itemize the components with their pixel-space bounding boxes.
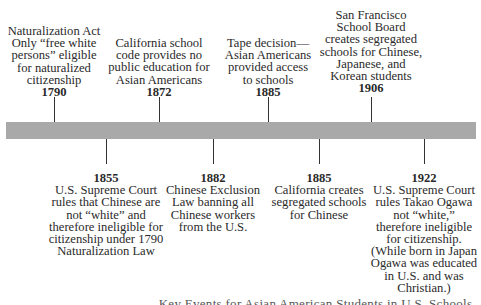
- event-text: public education for: [108, 61, 209, 73]
- event-text: to schools: [225, 74, 311, 86]
- event-1906: San Francisco School Board creates segre…: [320, 9, 422, 94]
- event-1885-tape: Tape decision— Asian Americans provided …: [225, 37, 311, 98]
- event-year: 1790: [8, 86, 101, 98]
- event-1922: 1922 U.S. Supreme Court rules Takao Ogaw…: [371, 172, 477, 294]
- event-text: not “white,”: [371, 209, 477, 221]
- event-text: segregated schools: [272, 196, 367, 208]
- caption-text: Key Events for Asian American Students i…: [0, 296, 481, 305]
- event-text: Chinese workers: [166, 209, 260, 221]
- event-1872: California school code provides no publi…: [108, 37, 209, 98]
- tick-1872: [159, 97, 160, 122]
- event-1882: 1882 Chinese Exclusion Law banning all C…: [166, 172, 260, 233]
- tick-1882: [213, 139, 214, 164]
- event-text: persons” eligible: [8, 49, 101, 61]
- tick-1922: [424, 139, 425, 164]
- event-text: creates segregated: [320, 33, 422, 45]
- event-year: 1906: [320, 82, 422, 94]
- event-1790: Naturalization Act Only “free white pers…: [8, 25, 101, 98]
- event-text: rules Takao Ogawa: [371, 196, 477, 208]
- event-year: 1872: [108, 86, 209, 98]
- event-text: Law banning all: [166, 196, 260, 208]
- event-text: Christian.): [371, 282, 477, 294]
- tick-1885-above: [268, 97, 269, 122]
- event-text: Asian Americans: [108, 74, 209, 86]
- event-text: Naturalization Law: [49, 245, 164, 257]
- event-text: for naturalized: [8, 62, 101, 74]
- event-text: Ogawa was educated: [371, 257, 477, 269]
- event-text: provided access: [225, 61, 311, 73]
- tick-1885-below: [319, 139, 320, 164]
- event-1855: 1855 U.S. Supreme Court rules that Chine…: [49, 172, 164, 257]
- tick-1855: [106, 139, 107, 164]
- event-text: schools for Chinese,: [320, 46, 422, 58]
- event-text: from the U.S.: [166, 221, 260, 233]
- event-text: rules that Chinese are: [49, 196, 164, 208]
- figure-caption: Key Events for Asian American Students i…: [0, 296, 481, 305]
- event-text: in U.S. and was: [371, 270, 477, 282]
- tick-1790: [54, 97, 55, 122]
- event-text: not “white” and: [49, 209, 164, 221]
- tick-1906: [371, 97, 372, 122]
- timeline-bar: [6, 122, 476, 139]
- event-text: for Chinese: [272, 209, 367, 221]
- event-year: 1885: [225, 86, 311, 98]
- event-1885-segregated: 1885 California creates segregated schoo…: [272, 172, 367, 221]
